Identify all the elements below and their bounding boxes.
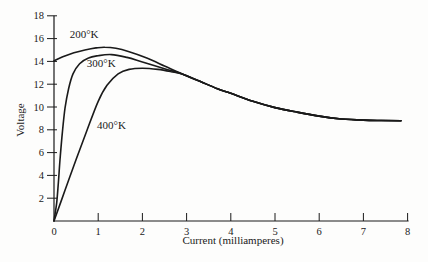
x-tick-label: 0 (51, 226, 56, 237)
x-axis-title: Current (milliamperes) (182, 234, 283, 246)
y-tick-label: 6 (39, 147, 44, 158)
y-tick-label: 14 (34, 56, 45, 67)
y-tick-label: 2 (39, 193, 44, 204)
curve-label-300k: 300°K (87, 57, 116, 69)
y-tick-label: 16 (34, 33, 45, 44)
figure: 01234567824681012141618 200°K 300°K 400°… (0, 0, 428, 262)
x-tick-label: 8 (405, 226, 410, 237)
x-tick-label: 2 (140, 226, 145, 237)
x-tick-label: 1 (96, 226, 101, 237)
y-tick-label: 12 (34, 79, 45, 90)
x-tick-label: 6 (317, 226, 322, 237)
x-tick-label: 7 (361, 226, 366, 237)
curve-300K (54, 55, 401, 221)
y-tick-label: 10 (34, 102, 45, 113)
y-axis-title: Voltage (14, 103, 26, 136)
y-tick-label: 8 (39, 124, 44, 135)
curve-400K (54, 68, 401, 221)
curve-label-400k: 400°K (97, 119, 126, 131)
y-tick-label: 4 (39, 170, 45, 181)
y-tick-label: 18 (34, 10, 45, 21)
curve-label-200k: 200°K (70, 28, 99, 40)
chart-canvas: 01234567824681012141618 (0, 0, 428, 262)
